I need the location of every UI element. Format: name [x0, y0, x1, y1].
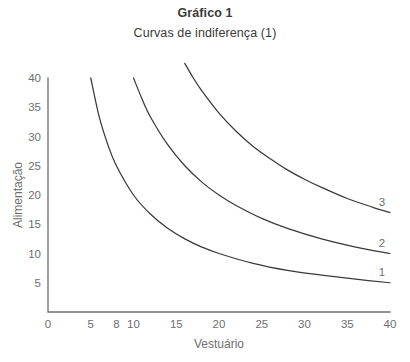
x-tick-15: 15 [170, 318, 183, 330]
indifference-curves [91, 63, 390, 282]
x-tick-25: 25 [255, 318, 268, 330]
x-tick-0: 0 [45, 318, 51, 330]
plot-area: 05810152025303540 510152025303540 123 Ve… [0, 0, 410, 362]
x-tick-8: 8 [113, 318, 119, 330]
chart-container: Gráfico 1 Curvas de indiferença (1) 0581… [0, 0, 410, 362]
curve-end-labels: 123 [379, 196, 385, 278]
y-tick-15: 15 [28, 218, 41, 230]
y-tick-20: 20 [28, 189, 41, 201]
x-axis-tick-labels: 05810152025303540 [45, 318, 397, 330]
y-tick-35: 35 [28, 101, 41, 113]
curve-2 [134, 78, 391, 254]
x-axis-title: Vestuário [194, 337, 244, 351]
x-tick-5: 5 [88, 318, 94, 330]
y-tick-25: 25 [28, 160, 41, 172]
y-tick-40: 40 [28, 72, 41, 84]
curve-label-2: 2 [379, 237, 385, 249]
x-tick-10: 10 [127, 318, 140, 330]
curve-3 [185, 63, 390, 212]
y-axis-tick-labels: 510152025303540 [28, 72, 41, 289]
y-axis-title: Alimentação [11, 162, 25, 228]
x-tick-35: 35 [341, 318, 354, 330]
curve-label-3: 3 [379, 196, 385, 208]
curve-1 [91, 78, 390, 283]
curve-label-1: 1 [379, 266, 385, 278]
x-tick-40: 40 [384, 318, 397, 330]
y-tick-30: 30 [28, 131, 41, 143]
x-tick-20: 20 [213, 318, 226, 330]
y-tick-5: 5 [35, 277, 41, 289]
x-tick-30: 30 [298, 318, 311, 330]
y-tick-10: 10 [28, 248, 41, 260]
